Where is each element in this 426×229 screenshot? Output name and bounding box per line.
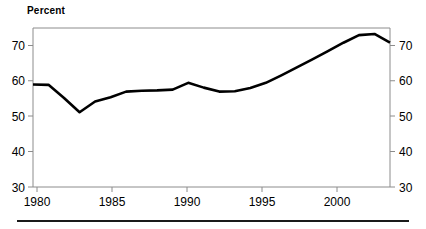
x-axis-tick-1990: 1990 <box>174 195 201 209</box>
x-axis-ticks <box>37 187 337 192</box>
x-axis-tick-1995: 1995 <box>249 195 276 209</box>
y-axis-left-tick-50: 50 <box>12 110 26 124</box>
line-chart-plot: 70 60 50 40 30 70 60 50 40 30 1980 1985 … <box>0 0 426 229</box>
x-axis-tick-1980: 1980 <box>24 195 51 209</box>
y-axis-left-tick-60: 60 <box>12 74 26 88</box>
x-axis-tick-1985: 1985 <box>99 195 126 209</box>
y-axis-left-tick-40: 40 <box>12 145 26 159</box>
bottom-horizontal-rule <box>17 220 409 222</box>
x-axis-tick-2000: 2000 <box>324 195 351 209</box>
y-axis-right-tick-50: 50 <box>399 110 413 124</box>
y-axis-right-tick-40: 40 <box>399 145 413 159</box>
y-axis-right-tick-60: 60 <box>399 74 413 88</box>
y-axis-left-tick-30: 30 <box>12 181 26 195</box>
chart-figure: Percent 70 60 <box>0 0 426 229</box>
y-axis-left-ticks <box>28 46 33 188</box>
y-axis-left-tick-70: 70 <box>12 39 26 53</box>
data-series-line <box>33 34 390 112</box>
y-axis-right-tick-30: 30 <box>399 181 413 195</box>
y-axis-right-tick-70: 70 <box>399 39 413 53</box>
y-axis-right-ticks <box>390 46 395 188</box>
